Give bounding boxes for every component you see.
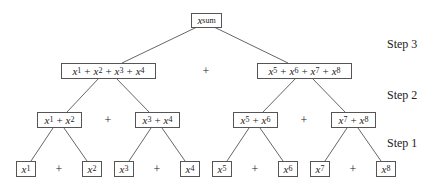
node-sum-1-4: x1 + x2 + x3 + x4 bbox=[61, 63, 156, 79]
sub: 6 bbox=[267, 116, 271, 124]
plus-level1-a: + bbox=[56, 163, 63, 175]
sub: 4 bbox=[190, 165, 194, 173]
plus-level2-left: + bbox=[105, 114, 112, 126]
leaf-x8: x8 bbox=[376, 161, 396, 177]
sub: 8 bbox=[365, 116, 369, 124]
plus-level3: + bbox=[203, 65, 210, 77]
step-3-label: Step 3 bbox=[387, 38, 417, 50]
leaf-x3: x3 bbox=[114, 161, 134, 177]
leaf-x5: x5 bbox=[212, 161, 232, 177]
sub: 1 bbox=[26, 165, 30, 173]
sub: 8 bbox=[337, 67, 341, 75]
leaf-x6: x6 bbox=[278, 161, 298, 177]
node-sum-5-6: x5 + x6 bbox=[233, 112, 278, 128]
node-sum-5-8: x5 + x6 + x7 + x8 bbox=[257, 63, 352, 79]
node-sum-1-2: x1 + x2 bbox=[37, 112, 82, 128]
sub: 4 bbox=[169, 116, 173, 124]
step-2-label: Step 2 bbox=[387, 89, 417, 101]
plus-level1-c: + bbox=[252, 163, 259, 175]
sub: 8 bbox=[386, 165, 390, 173]
node-sum-3-4: x3 + x4 bbox=[135, 112, 180, 128]
sub: 3 bbox=[124, 165, 128, 173]
leaf-x1: x1 bbox=[16, 161, 36, 177]
op: + bbox=[151, 115, 163, 126]
op: + bbox=[298, 66, 310, 77]
op: + bbox=[347, 115, 359, 126]
sub: 2 bbox=[92, 165, 96, 173]
node-sum-7-8: x7 + x8 bbox=[331, 112, 376, 128]
plus-level2-right: + bbox=[301, 114, 308, 126]
sub: 2 bbox=[71, 116, 75, 124]
node-sum: xsum bbox=[191, 13, 222, 28]
op: + bbox=[53, 115, 65, 126]
leaf-x4: x4 bbox=[180, 161, 200, 177]
leaf-x2: x2 bbox=[82, 161, 102, 177]
sub: 7 bbox=[320, 165, 324, 173]
step-1-label: Step 1 bbox=[387, 137, 417, 149]
node-sum-sub: sum bbox=[202, 17, 215, 25]
op: + bbox=[320, 66, 332, 77]
plus-level1-d: + bbox=[350, 163, 357, 175]
leaf-x7: x7 bbox=[310, 161, 330, 177]
op: + bbox=[277, 66, 289, 77]
op: + bbox=[81, 66, 93, 77]
op: + bbox=[249, 115, 261, 126]
op: + bbox=[124, 66, 136, 77]
op: + bbox=[102, 66, 114, 77]
sub: 5 bbox=[222, 165, 226, 173]
sub: 6 bbox=[288, 165, 292, 173]
sub: 4 bbox=[141, 67, 145, 75]
plus-level1-b: + bbox=[154, 163, 161, 175]
